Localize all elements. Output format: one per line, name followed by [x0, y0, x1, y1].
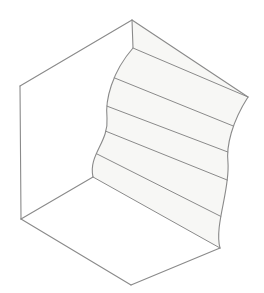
molding-svg: [0, 0, 264, 293]
molding-drawing-canvas: [0, 0, 264, 293]
